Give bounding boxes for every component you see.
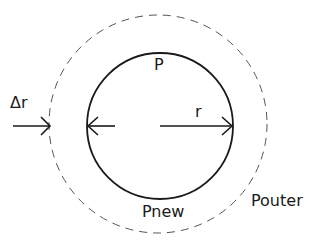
label-delta-r: Δr bbox=[10, 95, 28, 111]
outer-dashed-circle bbox=[49, 15, 267, 233]
label-pnew: Pnew bbox=[142, 204, 184, 220]
label-pouter: Pouter bbox=[251, 193, 303, 209]
diagram-canvas: P r Δr Pnew Pouter bbox=[0, 0, 321, 249]
delta-r-arrow bbox=[13, 117, 50, 135]
inward-arrow bbox=[88, 117, 115, 135]
label-r: r bbox=[195, 104, 202, 120]
label-p: P bbox=[154, 57, 164, 73]
